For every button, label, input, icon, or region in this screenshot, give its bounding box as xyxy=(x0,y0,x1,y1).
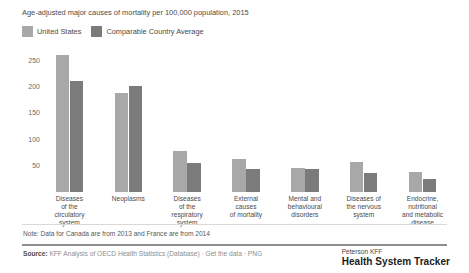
brand-main-line: Health System Tracker xyxy=(342,256,450,268)
chart-note: Note: Data for Canada are from 2013 and … xyxy=(23,230,210,237)
x-axis-label-line: Diseases xyxy=(154,195,221,203)
bar[interactable] xyxy=(56,55,70,192)
x-axis-label-line: Diseases xyxy=(36,195,103,203)
bar-group xyxy=(232,48,260,192)
x-axis-label-line: Mental and xyxy=(271,195,338,203)
source-divider xyxy=(22,244,447,246)
x-axis-label: Externalcausesof mortality xyxy=(213,195,280,219)
bar[interactable] xyxy=(173,151,187,192)
bar-group xyxy=(291,48,319,192)
x-axis-label-line: Endocrine, xyxy=(389,195,456,203)
bar[interactable] xyxy=(409,172,423,192)
bar[interactable] xyxy=(187,163,201,192)
x-axis-label: Diseases ofthe nervoussystem xyxy=(330,195,397,219)
bar[interactable] xyxy=(423,179,437,192)
x-axis-label: Diseasesof therespiratorysystem xyxy=(154,195,221,227)
chart-source: Source: KFF Analysis of OECD Health Stat… xyxy=(23,250,262,257)
bar[interactable] xyxy=(70,81,84,192)
bar[interactable] xyxy=(350,162,364,192)
note-divider xyxy=(22,224,447,225)
x-axis-label-line: the nervous xyxy=(330,203,397,211)
x-axis-label-line: Diseases of xyxy=(330,195,397,203)
y-tick-label: 50 xyxy=(14,162,40,170)
source-separator-2: · xyxy=(244,250,246,257)
bar[interactable] xyxy=(291,168,305,192)
x-axis-label-line: External xyxy=(213,195,280,203)
bar-group xyxy=(115,48,143,192)
y-tick-label: 200 xyxy=(14,83,40,91)
chart-figure: Age-adjusted major causes of mortality p… xyxy=(0,0,469,273)
x-axis-label: Diseasesof thecirculatorysystem xyxy=(36,195,103,227)
x-axis-label: Mental andbehaviouraldisorders xyxy=(271,195,338,219)
x-axis-label-line: of mortality xyxy=(213,211,280,219)
bar[interactable] xyxy=(232,159,246,192)
x-axis-label-line: causes xyxy=(213,203,280,211)
bar[interactable] xyxy=(364,173,378,192)
bars-container xyxy=(47,48,459,192)
bar[interactable] xyxy=(115,93,129,192)
x-axis-label-line: respiratory xyxy=(154,211,221,219)
x-axis-label-line: system xyxy=(330,211,397,219)
bar[interactable] xyxy=(305,169,319,192)
x-axis-label-line: of the xyxy=(36,203,103,211)
bar[interactable] xyxy=(246,169,260,192)
brand-block: Peterson KFF Health System Tracker xyxy=(342,248,450,268)
x-axis-label: Neoplasms xyxy=(95,195,162,203)
bar-group xyxy=(56,48,84,192)
x-axis-label-line: of the xyxy=(154,203,221,211)
x-axis-label-line: nutritional xyxy=(389,203,456,211)
source-text: KFF Analysis of OECD Health Statistics (… xyxy=(49,250,199,257)
y-tick-label: 100 xyxy=(14,136,40,144)
source-label: Source: xyxy=(23,250,48,257)
source-separator-1: · xyxy=(202,250,204,257)
bar[interactable] xyxy=(129,86,143,192)
x-axis-label-line: and metabolic xyxy=(389,211,456,219)
bar-group xyxy=(409,48,437,192)
x-axis-label-line: circulatory xyxy=(36,211,103,219)
png-link[interactable]: PNG xyxy=(248,250,262,257)
bar-group xyxy=(350,48,378,192)
brand-top-line: Peterson KFF xyxy=(342,248,450,256)
x-axis-label-line: behavioural xyxy=(271,203,338,211)
x-axis-label: Endocrine,nutritionaland metabolicdiseas… xyxy=(389,195,456,227)
y-tick-label: 250 xyxy=(14,57,40,65)
get-the-data-link[interactable]: Get the data xyxy=(206,250,242,257)
x-axis-label-line: Neoplasms xyxy=(95,195,162,203)
bar-group xyxy=(173,48,201,192)
x-axis-label-line: disorders xyxy=(271,211,338,219)
y-tick-label: 150 xyxy=(14,109,40,117)
